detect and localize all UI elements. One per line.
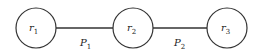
edge-label-letter: P — [174, 37, 181, 48]
node-label-sub: 3 — [226, 28, 230, 36]
edge-p1-label: P1 — [80, 38, 91, 51]
edge-label-sub: 1 — [87, 43, 91, 51]
node-label-sub: 2 — [132, 28, 136, 36]
edge-p2-label: P2 — [174, 38, 185, 51]
edge-label-sub: 2 — [181, 43, 185, 51]
node-r1-label: r1 — [29, 23, 38, 36]
node-label-sub: 1 — [34, 28, 38, 36]
node-r3-label: r3 — [221, 23, 230, 36]
edge-label-letter: P — [80, 37, 87, 48]
node-r2-label: r2 — [127, 23, 136, 36]
